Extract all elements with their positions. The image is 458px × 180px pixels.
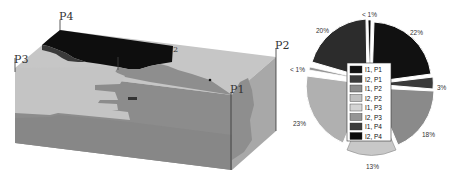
- dark-mark: [128, 97, 137, 100]
- legend-swatch-i1-p2: [350, 85, 362, 92]
- pct-label-left: < 1%: [290, 66, 305, 73]
- legend-swatch-i1-p4: [350, 123, 362, 130]
- legend-label-i2-p4: I2, P4: [365, 133, 382, 140]
- p4-label: P4: [59, 10, 73, 23]
- legend-swatch-i2-p1: [350, 76, 362, 83]
- pct-label-3: 3%: [437, 84, 447, 91]
- pct-label-23: 23%: [293, 120, 306, 127]
- legend-label-i2-p1: I2, P1: [365, 76, 382, 83]
- legend-swatch-i2-p4: [350, 133, 362, 140]
- legend-label-i2-p2: I2, P2: [365, 95, 382, 102]
- point-marker: [209, 79, 212, 82]
- legend-label-i1-p1: I1, P1: [365, 66, 382, 73]
- pct-label-top: < 1%: [362, 11, 377, 18]
- p1-label: P1: [230, 83, 244, 96]
- legend-swatch-i1-p1: [350, 66, 362, 73]
- legend-swatch-i2-p3: [350, 114, 362, 121]
- pct-label-20: 20%: [316, 27, 329, 34]
- 3d-block-diagram: P4 P3 P2 P1 2: [0, 0, 300, 180]
- front-light-region: [15, 67, 130, 120]
- pct-label-22: 22%: [410, 29, 423, 36]
- partial-label: 2: [173, 45, 178, 54]
- pie-chart-svg: I1, P1 I2, P1 I1, P2 I2, P2 I1, P3 I2, P…: [290, 0, 458, 180]
- legend-swatch-i2-p2: [350, 95, 362, 102]
- p2-label: P2: [275, 39, 289, 52]
- pct-label-18: 18%: [422, 131, 435, 138]
- legend-swatch-i1-p3: [350, 104, 362, 111]
- pie-chart: I1, P1 I2, P1 I1, P2 I2, P2 I1, P3 I2, P…: [290, 0, 458, 180]
- legend-label-i1-p4: I1, P4: [365, 123, 382, 130]
- legend: I1, P1 I2, P1 I1, P2 I2, P2 I1, P3 I2, P…: [347, 63, 391, 141]
- block-diagram-svg: P4 P3 P2 P1 2: [0, 0, 300, 180]
- pct-label-13: 13%: [366, 163, 379, 170]
- legend-label-i1-p2: I1, P2: [365, 85, 382, 92]
- legend-label-i2-p3: I2, P3: [365, 114, 382, 121]
- p3-label: P3: [14, 53, 28, 66]
- legend-label-i1-p3: I1, P3: [365, 104, 382, 111]
